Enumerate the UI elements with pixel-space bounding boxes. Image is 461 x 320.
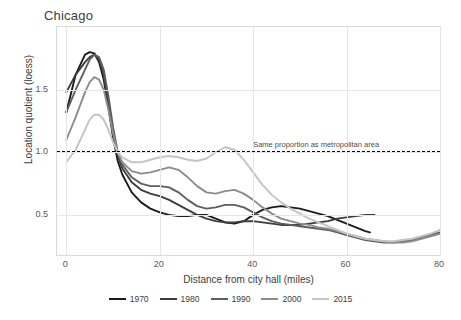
- legend-swatch: [160, 298, 177, 300]
- x-tick-label: 0: [63, 259, 68, 269]
- legend-label: 1970: [130, 294, 149, 304]
- y-tick-label: 1.5: [0, 84, 48, 94]
- y-tick-label: 0.5: [0, 209, 48, 219]
- gridline-vertical: [66, 27, 67, 255]
- legend-item-2015[interactable]: 2015: [312, 294, 352, 304]
- reference-line: [57, 151, 440, 152]
- legend-label: 1980: [181, 294, 200, 304]
- series-lines: [57, 27, 440, 255]
- y-axis-label: Location quotient (loess): [23, 20, 34, 200]
- legend-swatch: [211, 298, 228, 300]
- gridline-horizontal: [57, 215, 440, 216]
- chart-title: Chicago: [44, 8, 93, 23]
- plot-area: Same proportion as metropolitan area: [56, 26, 441, 256]
- legend-swatch: [261, 298, 278, 300]
- gridline-vertical: [160, 27, 161, 255]
- gridline-horizontal: [57, 90, 440, 91]
- reference-line-label: Same proportion as metropolitan area: [253, 140, 379, 149]
- legend-item-2000[interactable]: 2000: [261, 294, 301, 304]
- legend-label: 2000: [282, 294, 301, 304]
- legend-swatch: [109, 298, 126, 300]
- x-tick-label: 20: [154, 259, 164, 269]
- legend-swatch: [312, 298, 329, 300]
- x-tick-label: 40: [247, 259, 257, 269]
- x-axis-label: Distance from city hall (miles): [56, 274, 441, 285]
- chart-container: Chicago Location quotient (loess) Distan…: [0, 0, 461, 320]
- legend-item-1970[interactable]: 1970: [109, 294, 149, 304]
- legend-item-1980[interactable]: 1980: [160, 294, 200, 304]
- x-tick-label: 80: [434, 259, 444, 269]
- legend-item-1990[interactable]: 1990: [211, 294, 251, 304]
- gridline-horizontal: [57, 152, 440, 153]
- legend-label: 1990: [232, 294, 251, 304]
- legend: 19701980199020002015: [0, 294, 461, 304]
- gridline-vertical: [440, 27, 441, 255]
- y-tick-label: 1.0: [0, 146, 48, 156]
- legend-label: 2015: [333, 294, 352, 304]
- x-tick-label: 60: [341, 259, 351, 269]
